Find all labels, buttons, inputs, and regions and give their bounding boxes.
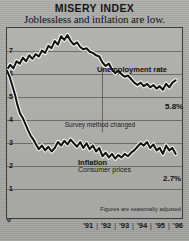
x-axis-group-3: '94 | <box>137 221 155 230</box>
x-axis: '91 | '92 | '93 | '94 | '95 | '96 <box>6 219 183 231</box>
plot-frame: 7 6 5 4 3 2 1 Unemployment rate Survey m… <box>6 27 183 219</box>
x-axis-group-4: '95 | <box>155 221 173 230</box>
x-axis-tick-4: | <box>168 222 170 229</box>
value-label-unemployment: 5.8% <box>165 102 183 111</box>
page-subtitle: Joblessless and inflation are low. <box>0 13 189 25</box>
chart-footnote: Figures are seasonally adjusted <box>0 206 181 212</box>
annotation-unemployment-rate: Unemployment rate <box>95 65 169 74</box>
x-axis-label-91: '91 <box>83 221 93 230</box>
x-axis-group-2: '93 | <box>119 221 137 230</box>
x-axis-group-0: '91 | <box>83 221 101 230</box>
x-axis-group-1: '92 | <box>101 221 119 230</box>
x-axis-label-92: '92 <box>101 221 111 230</box>
x-axis-label-94: '94 <box>137 221 147 230</box>
annotation-survey-method: Survey method changed <box>61 121 139 129</box>
value-label-inflation: 2.7% <box>163 174 181 183</box>
annotation-inflation-subtitle: Consumer prices <box>78 166 131 173</box>
misery-index-chart-card: MISERY INDEX Joblessless and inflation a… <box>0 0 189 241</box>
x-axis-tick-3: | <box>150 222 152 229</box>
x-axis-tick-0: | <box>96 222 98 229</box>
x-axis-label-96: '96 <box>173 221 183 230</box>
series-inflation <box>7 71 176 159</box>
x-axis-group-5: '96 <box>173 221 183 230</box>
x-axis-label-93: '93 <box>119 221 129 230</box>
x-axis-tick-2: | <box>132 222 134 229</box>
series-unemployment-rate <box>7 35 176 90</box>
x-axis-tick-1: | <box>114 222 116 229</box>
x-axis-label-95: '95 <box>155 221 165 230</box>
